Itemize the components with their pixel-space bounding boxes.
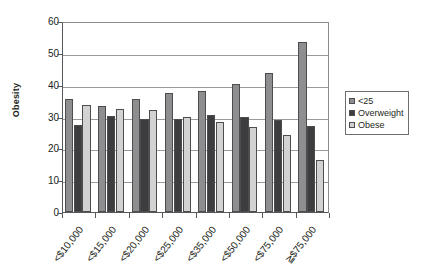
bar-group	[198, 23, 224, 212]
legend-item: Overweight	[349, 107, 404, 119]
legend-item-label: <25	[358, 97, 373, 106]
bar	[65, 99, 73, 212]
bar-group	[65, 23, 91, 212]
bar	[316, 160, 324, 212]
bar	[107, 116, 115, 212]
bar-group	[232, 23, 258, 212]
chart-legend: <25OverweightObese	[345, 91, 409, 135]
y-axis-tick-label: 40	[31, 81, 59, 91]
bar	[265, 73, 273, 212]
bar-group	[165, 23, 191, 212]
y-axis-tick-label: 0	[31, 208, 59, 218]
bar-group	[132, 23, 158, 212]
bar	[274, 120, 282, 212]
bar	[307, 126, 315, 212]
legend-swatch-icon	[349, 110, 355, 116]
bar	[232, 84, 240, 212]
x-axis-tick-mark	[196, 213, 197, 218]
legend-item-label: Obese	[358, 121, 385, 130]
bar-group	[98, 23, 124, 212]
bar-group	[265, 23, 291, 212]
legend-swatch-icon	[349, 122, 355, 128]
legend-item-label: Overweight	[358, 109, 404, 118]
chart-figure: Obesity 0102030405060 <$10,000<$15,000<$…	[0, 0, 425, 274]
y-axis-title: Obesity	[11, 70, 21, 130]
x-axis-tick-mark	[162, 213, 163, 218]
bar	[149, 110, 157, 212]
legend-item: Obese	[349, 119, 404, 131]
bar	[249, 127, 257, 212]
bar	[82, 105, 90, 212]
bar	[140, 119, 148, 212]
bar-group	[298, 23, 324, 212]
y-axis-tick-label: 60	[31, 17, 59, 27]
x-axis-tick-mark	[329, 213, 330, 218]
legend-swatch-icon	[349, 98, 355, 104]
y-axis-tick-label: 10	[31, 176, 59, 186]
bar	[240, 117, 248, 213]
x-axis-tick-mark	[95, 213, 96, 218]
bar	[298, 42, 306, 212]
y-axis-tick-label: 30	[31, 113, 59, 123]
x-axis-tick-mark	[262, 213, 263, 218]
bar	[183, 117, 191, 212]
x-axis-tick-mark	[229, 213, 230, 218]
bar	[216, 122, 224, 212]
x-axis-tick-mark	[296, 213, 297, 218]
y-axis-tick-label: 20	[31, 144, 59, 154]
x-axis-tick-mark	[62, 213, 63, 218]
bar	[132, 99, 140, 212]
bar	[98, 106, 106, 212]
y-axis-tick-label: 50	[31, 49, 59, 59]
bar	[283, 135, 291, 212]
bar	[174, 119, 182, 212]
bar	[207, 115, 215, 212]
bar	[116, 109, 124, 212]
bar	[198, 91, 206, 212]
x-axis-tick-mark	[129, 213, 130, 218]
plot-area	[62, 22, 329, 213]
legend-item: <25	[349, 95, 404, 107]
bar	[165, 93, 173, 212]
bar	[74, 125, 82, 212]
